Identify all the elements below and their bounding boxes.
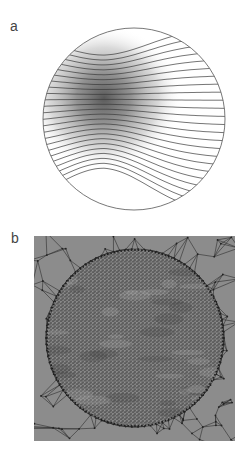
boundary-node xyxy=(82,408,84,410)
mesh-node xyxy=(95,257,97,259)
boundary-node xyxy=(88,412,90,414)
boundary-node xyxy=(205,389,207,391)
boundary-node xyxy=(201,394,203,396)
boundary-node xyxy=(100,418,102,420)
mesh-node xyxy=(179,414,181,416)
boundary-node xyxy=(186,266,188,268)
mesh-node xyxy=(29,427,31,429)
boundary-node xyxy=(134,425,136,427)
mesh-node xyxy=(238,321,240,323)
mesh-edge xyxy=(237,435,239,443)
boundary-node xyxy=(107,421,109,423)
boundary-node xyxy=(67,280,69,282)
mesh-edge xyxy=(31,424,35,427)
boundary-node xyxy=(180,262,182,264)
mesh-node xyxy=(179,260,181,262)
streamline xyxy=(41,168,227,214)
mesh-node xyxy=(230,236,232,238)
boundary-node xyxy=(69,277,71,279)
mesh-node xyxy=(182,419,184,421)
boundary-node xyxy=(220,358,222,360)
boundary-node xyxy=(46,337,48,339)
boundary-node xyxy=(215,371,217,373)
mesh-node xyxy=(46,325,48,327)
boundary-node xyxy=(155,252,157,254)
panel-b xyxy=(29,231,240,444)
mesh-node xyxy=(222,349,224,351)
mesh-node xyxy=(238,434,240,436)
boundary-node xyxy=(91,260,93,262)
boundary-node xyxy=(161,253,163,255)
boundary-node xyxy=(151,251,153,253)
mesh-node xyxy=(194,403,196,405)
boundary-node xyxy=(72,275,74,277)
boundary-node xyxy=(104,420,106,422)
mesh-edge xyxy=(46,232,48,234)
boundary-node xyxy=(203,392,205,394)
boundary-node xyxy=(74,402,76,404)
boundary-node xyxy=(80,406,82,408)
boundary-node xyxy=(165,420,167,422)
boundary-node xyxy=(217,307,219,309)
boundary-node xyxy=(134,249,136,251)
mesh-node xyxy=(70,275,72,277)
mesh-density-patch xyxy=(90,349,118,358)
boundary-node xyxy=(183,264,185,266)
boundary-node xyxy=(189,268,191,270)
boundary-node xyxy=(215,303,217,305)
mesh-node xyxy=(215,424,217,426)
mesh-node xyxy=(45,231,47,233)
mesh-density-patch xyxy=(161,279,176,288)
boundary-node xyxy=(214,374,216,376)
boundary-node xyxy=(158,422,160,424)
boundary-node xyxy=(100,256,102,258)
boundary-node xyxy=(80,268,82,270)
boundary-node xyxy=(120,250,122,252)
boundary-node xyxy=(131,425,133,427)
boundary-node xyxy=(211,380,213,382)
mesh-density-patch xyxy=(172,350,205,355)
mesh-node xyxy=(215,421,217,423)
mesh-node xyxy=(213,295,215,297)
boundary-node xyxy=(196,399,198,401)
boundary-node xyxy=(191,404,193,406)
mesh-node xyxy=(46,349,48,351)
boundary-node xyxy=(209,383,211,385)
boundary-node xyxy=(221,347,223,349)
mesh-node xyxy=(196,418,198,420)
mesh-node xyxy=(194,271,196,273)
mesh-node xyxy=(223,403,225,405)
boundary-node xyxy=(63,389,65,391)
boundary-node xyxy=(88,262,90,264)
mesh-node xyxy=(163,428,165,430)
mesh-node xyxy=(61,248,63,250)
mesh-node xyxy=(119,425,121,427)
boundary-node xyxy=(222,341,224,343)
boundary-node xyxy=(124,250,126,252)
boundary-node xyxy=(220,354,222,356)
boundary-node xyxy=(47,327,49,329)
boundary-node xyxy=(57,380,59,382)
boundary-node xyxy=(174,259,176,261)
boundary-node xyxy=(211,294,213,296)
boundary-node xyxy=(65,392,67,394)
mesh-node xyxy=(207,442,209,444)
boundary-node xyxy=(144,424,146,426)
boundary-node xyxy=(56,297,58,299)
boundary-node xyxy=(207,288,209,290)
mesh-node xyxy=(104,248,106,250)
boundary-node xyxy=(77,270,79,272)
boundary-node xyxy=(219,313,221,315)
boundary-node xyxy=(127,249,129,251)
boundary-node xyxy=(107,253,109,255)
mesh-node xyxy=(46,254,48,256)
boundary-node xyxy=(61,288,63,290)
mesh-node xyxy=(69,260,71,262)
mesh-node xyxy=(197,253,199,255)
boundary-node xyxy=(141,425,143,427)
boundary-node xyxy=(199,277,201,279)
boundary-node xyxy=(199,397,201,399)
boundary-node xyxy=(94,416,96,418)
mesh-node xyxy=(150,249,152,251)
boundary-node xyxy=(158,252,160,254)
